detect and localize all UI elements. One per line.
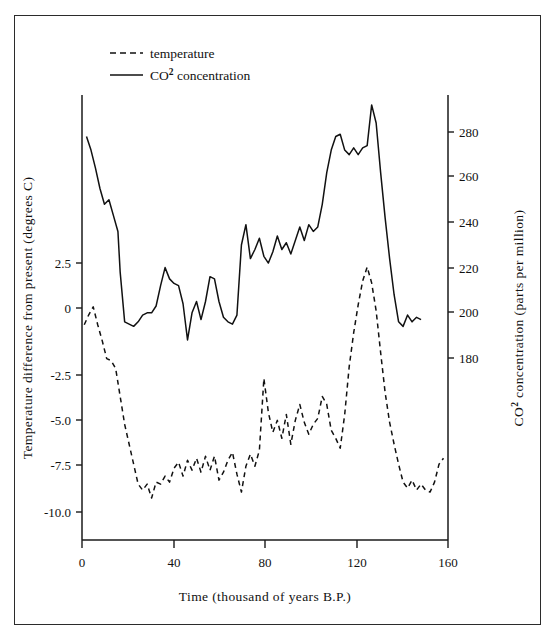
y-axis-right-ticks: 280 260 240 220 200 180 bbox=[448, 125, 479, 366]
y-left-tick-label: -7.5 bbox=[50, 458, 71, 473]
y-right-tick-label: 200 bbox=[459, 305, 479, 320]
figure-container: temperature CO2 concentration 2.5 0 -2.5… bbox=[0, 0, 556, 637]
y-right-tick-label: 280 bbox=[459, 125, 479, 140]
y-left-tick-label: -2.5 bbox=[50, 368, 71, 383]
x-axis-title: Time (thousand of years B.P.) bbox=[179, 589, 351, 604]
legend-co2-prefix: CO bbox=[150, 68, 169, 83]
y-right-tick-label: 180 bbox=[459, 351, 479, 366]
y-right-title-suffix: concentration (parts per million) bbox=[511, 210, 526, 398]
y-left-tick-label: 2.5 bbox=[55, 256, 71, 271]
y-axis-left-ticks: 2.5 0 -2.5 -5.0 -7.5 -10.0 bbox=[44, 256, 82, 520]
y-axis-right-title: CO2 concentration (parts per million) bbox=[510, 210, 526, 427]
series-line-co2 bbox=[86, 105, 421, 340]
x-tick-label: 160 bbox=[438, 555, 458, 570]
y-right-tick-label: 220 bbox=[459, 261, 479, 276]
x-tick-label: 40 bbox=[168, 555, 181, 570]
x-tick-label: 0 bbox=[79, 555, 86, 570]
legend-label-temperature: temperature bbox=[150, 46, 214, 61]
legend-co2-suffix: concentration bbox=[177, 68, 251, 83]
y-axis-left-title: Temperature difference from present (deg… bbox=[20, 177, 35, 460]
y-left-tick-label: 0 bbox=[65, 301, 72, 316]
chart-legend: temperature CO2 concentration bbox=[110, 46, 251, 83]
y-right-tick-label: 260 bbox=[459, 169, 479, 184]
x-tick-label: 120 bbox=[347, 555, 367, 570]
x-tick-label: 80 bbox=[259, 555, 272, 570]
y-right-tick-label: 240 bbox=[459, 215, 479, 230]
series-line-temperature bbox=[84, 267, 443, 498]
y-left-tick-label: -10.0 bbox=[44, 505, 71, 520]
x-axis-ticks: 0 40 80 120 160 bbox=[79, 540, 458, 570]
y-right-title-prefix: CO bbox=[511, 407, 526, 427]
chart-canvas: temperature CO2 concentration 2.5 0 -2.5… bbox=[0, 0, 556, 637]
legend-label-co2: CO2 concentration bbox=[150, 67, 251, 83]
y-left-tick-label: -5.0 bbox=[50, 413, 71, 428]
